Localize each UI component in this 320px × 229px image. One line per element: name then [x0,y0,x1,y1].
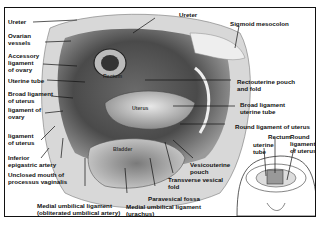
figure-frame: Rectum Uterus Bladder Ureter Ovarian ves… [4,7,316,217]
label-medial-umbilical-urachus: Medial umbilical ligament (urachus) [126,203,201,217]
label-broad-ligament: Broad ligament of uterus [8,90,53,104]
organ-label-bladder: Bladder [113,146,132,152]
label-ligament-of-ovary: ligament of ovary [8,106,41,120]
label-ureter-top: Ureter [179,11,197,18]
label-sigmoid-mesocolon: Sigmoid mesocolon [230,20,289,27]
label-ovarian-vessels: Ovarian vessels [8,32,31,46]
label-rectouterine-pouch: Rectouterine pouch and fold [237,78,295,92]
inset-label-rectum: Rectum [268,133,291,140]
label-vesicouterine-pouch: Vesicouterine pouch [190,161,230,175]
organ-label-uterus: Uterus [132,105,148,111]
inset-label-uterine-tube: uterine tube [253,141,274,155]
label-broad-ligament-tube: Broad ligament uterine tube [240,101,285,115]
label-transverse-vesical-fold: Transverse vesical fold [168,176,223,190]
inset-label-round-ligament: Round ligament of uterus [290,133,316,154]
label-ureter-left: Ureter [8,18,26,25]
label-inferior-epigastric: Inferior epigastric artery [8,154,56,168]
label-round-ligament: Round ligament of uterus [235,123,310,130]
label-paravesical-fossa: Paravesical fossa [148,195,200,202]
label-accessory-ligament: Accessory ligament of ovary [8,52,39,73]
organ-label-rectum: Rectum [103,73,122,79]
label-uterine-tube-left: Uterine tube [8,77,44,84]
label-ligament-of-uterus: ligament of uterus [8,132,34,146]
label-unclosed-mouth: Unclosed mouth of processus vaginalis [8,171,67,185]
label-medial-umbilical-artery: Medial umbilical ligament (obliterated u… [37,202,120,216]
